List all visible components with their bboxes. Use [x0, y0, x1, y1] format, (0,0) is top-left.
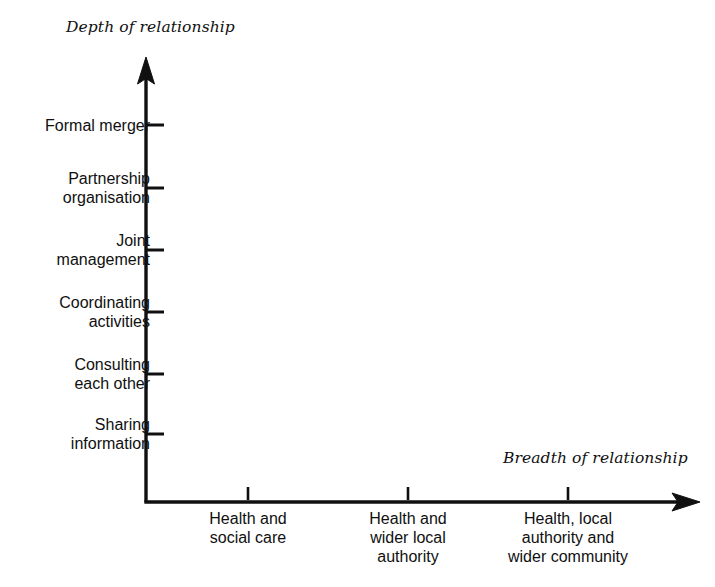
relationship-matrix-figure: Depth of relationship Breadth of relatio…	[0, 0, 715, 587]
y-tick-label-line: management	[57, 250, 150, 269]
y-tick-label-line: information	[71, 434, 150, 453]
y-tick-label-line: Consulting	[74, 355, 150, 374]
y-tick-label-line: organisation	[63, 188, 150, 207]
y-tick-label-sharing-information: Sharing information	[71, 415, 150, 453]
x-tick-label-line: authority and	[468, 528, 668, 547]
y-tick-label-coordinating-activities: Coordinating activities	[59, 293, 150, 331]
y-tick-label-partnership-organisation: Partnership organisation	[63, 169, 150, 207]
y-tick-label-consulting-each-other: Consulting each other	[74, 355, 150, 393]
y-tick-label-formal-merger: Formal merger	[45, 116, 150, 135]
y-tick-label-line: Sharing	[71, 415, 150, 434]
y-tick-label-line: Coordinating	[59, 293, 150, 312]
y-tick-label-line: Joint	[57, 231, 150, 250]
y-tick-label-line: each other	[74, 374, 150, 393]
x-tick-label-health-local-authority-and-wider-community: Health, local authority and wider commun…	[468, 509, 668, 566]
y-tick-label-joint-management: Joint management	[57, 231, 150, 269]
y-tick-label-line: Partnership	[63, 169, 150, 188]
y-tick-label-line: Formal merger	[45, 116, 150, 135]
x-tick-label-line: wider community	[468, 547, 668, 566]
x-tick-label-line: Health, local	[468, 509, 668, 528]
y-tick-label-line: activities	[59, 312, 150, 331]
x-axis-ticks	[248, 487, 568, 500]
